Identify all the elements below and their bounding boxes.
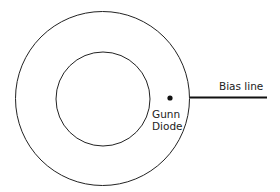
gunn-diode-dot bbox=[167, 95, 172, 100]
inner-conductor-circle bbox=[56, 52, 150, 146]
gunn-label: Gunn bbox=[152, 108, 180, 120]
diode-label: Diode bbox=[152, 120, 183, 132]
outer-cavity-circle bbox=[16, 12, 190, 186]
resonator-diagram bbox=[0, 0, 280, 192]
bias-line-label: Bias line bbox=[219, 80, 263, 92]
